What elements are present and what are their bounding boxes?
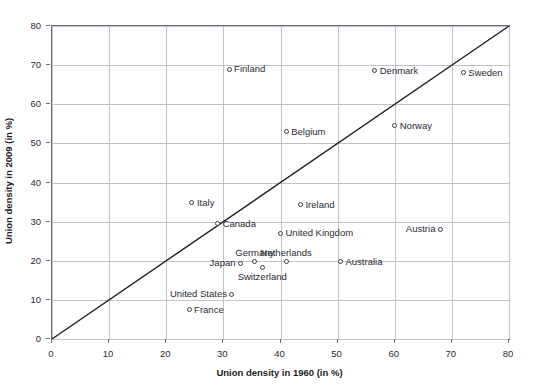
x-tick-label: 40 <box>274 348 285 359</box>
identity-reference-line <box>52 26 509 339</box>
y-tick-label: 40 <box>30 176 41 187</box>
y-tick <box>46 142 50 143</box>
data-point-label: Switzerland <box>238 272 287 282</box>
data-point <box>278 231 283 236</box>
data-point <box>238 261 243 266</box>
y-tick-label: 20 <box>30 254 41 265</box>
x-tick-label: 80 <box>503 348 514 359</box>
gridline-horizontal <box>52 339 509 340</box>
data-point <box>260 265 265 270</box>
x-tick-label: 30 <box>217 348 228 359</box>
y-tick <box>46 299 50 300</box>
data-point-label: Norway <box>400 121 432 131</box>
y-tick <box>46 103 50 104</box>
y-tick-label: 60 <box>30 98 41 109</box>
x-tick <box>222 339 223 343</box>
x-tick-label: 0 <box>48 348 53 359</box>
data-point-label: Italy <box>197 198 214 208</box>
x-tick <box>337 339 338 343</box>
data-point-label: Japan <box>210 259 236 269</box>
data-point-label: Sweden <box>468 68 502 78</box>
data-point-label: Austria <box>406 225 436 235</box>
y-tick <box>46 64 50 65</box>
data-point-label: Ireland <box>305 200 334 210</box>
data-point <box>187 307 192 312</box>
data-point-label: United Kingdom <box>286 229 354 239</box>
x-tick-label: 60 <box>388 348 399 359</box>
y-tick <box>46 260 50 261</box>
x-tick <box>108 339 109 343</box>
y-tick <box>46 338 50 339</box>
x-tick <box>51 339 52 343</box>
x-axis-title: Union density in 1960 (in %) <box>51 367 508 378</box>
y-tick-label: 30 <box>30 215 41 226</box>
y-tick-label: 80 <box>30 20 41 31</box>
y-tick <box>46 182 50 183</box>
x-tick <box>508 339 509 343</box>
x-tick-label: 50 <box>331 348 342 359</box>
x-tick <box>394 339 395 343</box>
data-point-label: France <box>194 305 224 315</box>
data-point-label: Canada <box>223 219 256 229</box>
data-point-label: Denmark <box>380 66 419 76</box>
scatter-chart: FinlandDenmarkSwedenNorwayBelgiumItalyIr… <box>0 0 538 389</box>
y-tick-label: 10 <box>30 293 41 304</box>
x-tick-label: 10 <box>103 348 114 359</box>
y-tick-label: 50 <box>30 137 41 148</box>
y-tick <box>46 25 50 26</box>
x-tick <box>451 339 452 343</box>
x-tick-label: 70 <box>446 348 457 359</box>
data-point <box>284 259 289 264</box>
data-point-label: Finland <box>234 64 265 74</box>
data-point-label: Australia <box>345 257 382 267</box>
data-point <box>284 129 289 134</box>
data-point <box>227 67 232 72</box>
y-tick-label: 0 <box>36 333 41 344</box>
y-tick-label: 70 <box>30 59 41 70</box>
gridline-vertical <box>509 26 510 339</box>
x-tick <box>165 339 166 343</box>
plot-area: FinlandDenmarkSwedenNorwayBelgiumItalyIr… <box>51 25 510 340</box>
data-point <box>438 227 443 232</box>
x-tick <box>280 339 281 343</box>
data-point <box>338 259 343 264</box>
data-point-label: United States <box>170 289 227 299</box>
x-tick-label: 20 <box>160 348 171 359</box>
y-tick <box>46 221 50 222</box>
data-point-label: Germany <box>235 247 274 257</box>
y-axis-title: Union density in 2009 (in %) <box>3 118 14 244</box>
data-point-label: Belgium <box>291 127 325 137</box>
